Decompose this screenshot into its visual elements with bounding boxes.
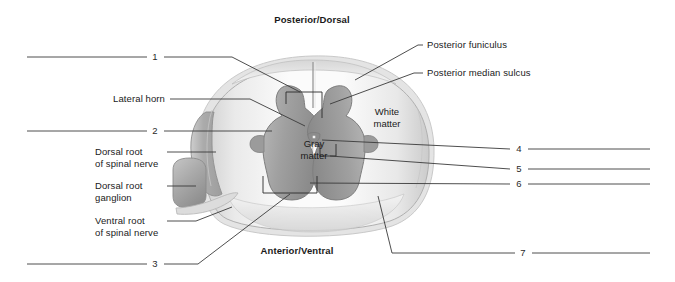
orientation-label-posterior-dorsal: Posterior/Dorsal — [252, 14, 372, 26]
lateral-horn-left — [250, 135, 264, 152]
lateral-horn-right — [364, 135, 378, 152]
label-lateral-horn: Lateral horn — [55, 93, 165, 105]
blank-number-5[interactable]: 5 — [512, 163, 526, 174]
orientation-label-anterior-ventral: Anterior/Ventral — [232, 245, 362, 257]
blank-number-3[interactable]: 3 — [148, 258, 162, 269]
label-dorsal-root-of-spinal-nerve: Dorsal root of spinal nerve — [95, 146, 205, 170]
label-ventral-root-of-spinal-nerve: Ventral root of spinal nerve — [95, 215, 205, 239]
label-posterior-funiculus: Posterior funiculus — [427, 39, 597, 51]
blank-number-2[interactable]: 2 — [148, 125, 162, 136]
label-dorsal-root-ganglion: Dorsal root ganglion — [95, 180, 205, 204]
blank-number-4[interactable]: 4 — [512, 143, 526, 154]
inner-label-gray-matter: Gray matter — [278, 138, 350, 161]
spinal-cord-figure: Posterior/Dorsal Anterior/Ventral Gray m… — [0, 0, 675, 282]
label-posterior-median-sulcus: Posterior median sulcus — [427, 67, 627, 79]
blank-number-7[interactable]: 7 — [516, 247, 530, 258]
inner-label-white-matter: White matter — [356, 106, 418, 129]
blank-number-6[interactable]: 6 — [512, 178, 526, 189]
blank-number-1[interactable]: 1 — [148, 51, 162, 62]
